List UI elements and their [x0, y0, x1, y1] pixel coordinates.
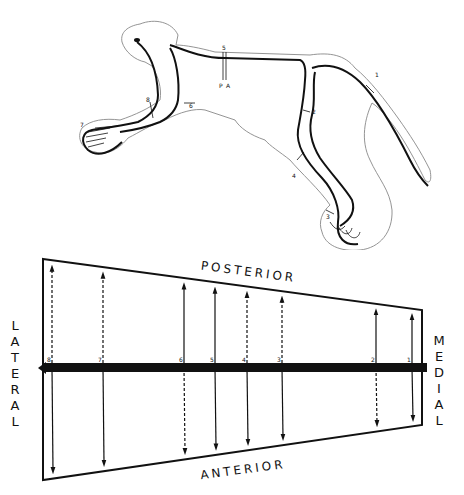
- line-6-bottom: [184, 368, 185, 452]
- line-label-4: 4: [242, 356, 246, 363]
- line-label-8: 8: [47, 356, 51, 363]
- line-1-bottom: [412, 368, 413, 418]
- line-3-bottom: [282, 368, 283, 437]
- line-5-bottom: [215, 368, 216, 447]
- line-label-6: 6: [179, 356, 183, 363]
- line-label-3: 3: [277, 356, 281, 363]
- schematic-diagram: 87654321 POSTERIOR ANTERIOR: [0, 0, 464, 495]
- line-label-5: 5: [210, 356, 214, 363]
- line-2-bottom: [376, 368, 377, 424]
- medial-label: MEDIAL: [432, 333, 446, 429]
- line-8-bottom: [52, 368, 53, 471]
- lateral-label: LATERAL: [8, 318, 22, 430]
- line-label-2: 2: [371, 356, 375, 363]
- central-axis-bar: [44, 363, 427, 372]
- line-7-bottom: [103, 368, 104, 463]
- anterior-label: ANTERIOR: [199, 457, 286, 482]
- line-4-bottom: [247, 368, 248, 442]
- posterior-label: POSTERIOR: [200, 258, 297, 285]
- line-label-7: 7: [98, 356, 102, 363]
- line-label-1: 1: [407, 356, 411, 363]
